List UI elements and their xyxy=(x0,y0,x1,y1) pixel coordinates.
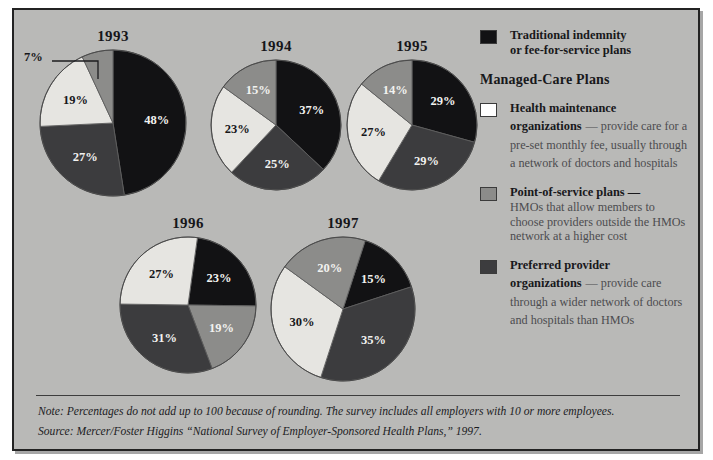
callout-leader-line-1993 xyxy=(50,55,110,81)
pie-slice-label: 35% xyxy=(361,333,386,347)
legend-swatch-preferred-provider xyxy=(480,260,497,274)
legend-section-managed-care: Managed-Care Plans xyxy=(480,72,688,88)
footnote-divider xyxy=(36,395,680,396)
pie-slice-label: 27% xyxy=(361,125,386,139)
footnote-note: Note: Percentages do not add up to 100 b… xyxy=(38,402,688,422)
pie-canvas-1996: 23%19%31%27% xyxy=(112,235,264,375)
legend-label-hmo-line1: Health maintenance xyxy=(510,101,688,116)
legend-label-traditional-indemnity-line1: Traditional indemnity xyxy=(510,28,688,43)
pie-svg-1994: 37%25%23%15% xyxy=(208,58,344,192)
pie-canvas-1995: 29%29%27%14% xyxy=(336,58,488,192)
pie-chart-1996: 1996 23%19%31%27% xyxy=(112,215,264,387)
legend-label-preferred-provider-line2: organizations — provide care through a w… xyxy=(510,273,688,327)
pie-svg-1996: 23%19%31%27% xyxy=(117,235,259,375)
legend-label-preferred-provider-line1: Preferred provider xyxy=(510,258,688,273)
legend-label-hmo-line2: organizations — provide care for a pre-s… xyxy=(510,116,688,170)
pie-title-1997: 1997 xyxy=(262,215,424,232)
chart-frame: 1993 48%27%19% 7% 1994 37%25%23%15% 1995… xyxy=(12,8,700,451)
legend-label-point-of-service: Point-of-service plans — xyxy=(510,185,688,200)
pie-slice-label: 14% xyxy=(383,83,408,97)
pie-slice-label: 37% xyxy=(299,103,324,117)
pie-slice-label: 15% xyxy=(246,83,271,97)
pie-chart-1997: 1997 15%35%30%20% xyxy=(262,215,424,387)
pie-canvas-1994: 37%25%23%15% xyxy=(200,58,352,192)
footnote-source: Source: Mercer/Foster Higgins “National … xyxy=(38,422,688,442)
pie-slice-label: 20% xyxy=(317,261,342,275)
pie-slice-label: 25% xyxy=(265,157,290,171)
legend-swatch-hmo xyxy=(480,103,497,117)
pie-slice-label: 48% xyxy=(144,113,169,127)
pie-slice-label: 23% xyxy=(225,122,250,136)
pie-slice-label: 30% xyxy=(289,315,314,329)
legend-swatch-traditional-indemnity xyxy=(480,30,497,44)
callout-label-1993: 7% xyxy=(24,50,43,65)
footnotes: Note: Percentages do not add up to 100 b… xyxy=(38,402,688,443)
legend-item-preferred-provider[interactable]: Preferred provider organizations — provi… xyxy=(480,258,688,327)
pie-title-1995: 1995 xyxy=(336,38,488,55)
legend-desc-point-of-service: HMOs that allow members to choose provid… xyxy=(510,200,688,245)
legend-item-traditional-indemnity[interactable]: Traditional indemnity or fee-for-service… xyxy=(480,28,688,58)
pie-svg-1995: 29%29%27%14% xyxy=(344,58,480,192)
pie-canvas-1997: 15%35%30%20% xyxy=(262,235,424,383)
pie-title-1994: 1994 xyxy=(200,38,352,55)
pie-slice-label: 29% xyxy=(414,154,439,168)
pie-svg-1997: 15%35%30%20% xyxy=(268,235,418,383)
legend: Traditional indemnity or fee-for-service… xyxy=(480,28,688,342)
pie-slice-label: 29% xyxy=(431,94,456,108)
pie-slice-label: 19% xyxy=(63,93,88,107)
pie-chart-1994: 1994 37%25%23%15% xyxy=(200,38,352,208)
pie-slice-label: 27% xyxy=(73,150,98,164)
legend-item-point-of-service[interactable]: Point-of-service plans — HMOs that allow… xyxy=(480,185,688,245)
pie-slice-label: 23% xyxy=(207,271,232,285)
legend-label-traditional-indemnity-line2: or fee-for-service plans xyxy=(510,43,688,58)
legend-item-hmo[interactable]: Health maintenance organizations — provi… xyxy=(480,101,688,170)
pie-title-1996: 1996 xyxy=(112,215,264,232)
pie-slice-label: 15% xyxy=(361,272,386,286)
pie-chart-1995: 1995 29%29%27%14% xyxy=(336,38,488,208)
pie-slice-label: 19% xyxy=(209,321,234,335)
pie-slice-label: 31% xyxy=(152,331,177,345)
pie-slice-label: 27% xyxy=(149,267,174,281)
pie-chart-1993: 1993 48%27%19% 7% xyxy=(28,28,198,203)
legend-swatch-point-of-service xyxy=(480,187,497,201)
pie-title-1993: 1993 xyxy=(28,28,198,45)
